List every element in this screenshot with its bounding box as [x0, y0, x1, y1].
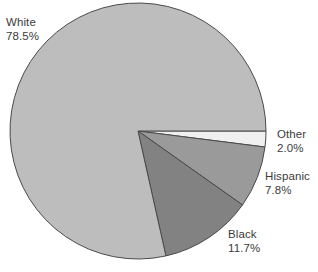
pie-label-other: Other 2.0% [277, 128, 306, 155]
pie-label-hispanic-name: Hispanic [265, 170, 310, 184]
pie-label-other-name: Other [277, 128, 306, 142]
pie-label-other-value: 2.0% [277, 142, 306, 156]
pie-label-hispanic: Hispanic 7.8% [265, 170, 310, 197]
pie-label-white-value: 78.5% [6, 30, 39, 44]
pie-label-white-name: White [6, 16, 39, 30]
pie-label-white: White 78.5% [6, 16, 39, 43]
pie-label-hispanic-value: 7.8% [265, 184, 310, 198]
pie-chart: White 78.5% Other 2.0% Hispanic 7.8% Bla… [0, 0, 318, 272]
pie-label-black-name: Black [228, 228, 260, 242]
pie-slice-group [10, 3, 266, 259]
pie-label-black: Black 11.7% [228, 228, 260, 255]
pie-label-black-value: 11.7% [228, 242, 260, 256]
pie-chart-svg [0, 0, 318, 272]
